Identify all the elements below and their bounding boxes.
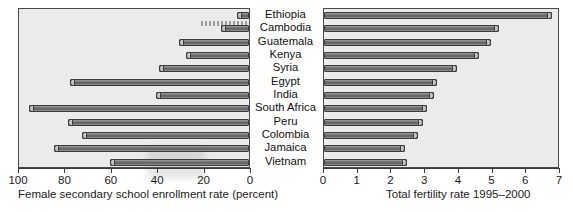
bar-end-cap [82,132,87,139]
bar [324,39,491,46]
bar-row [19,62,249,75]
bar-end-cap [179,39,184,46]
category-label: Kenya [250,48,321,61]
bar [324,132,418,139]
axis-tick [458,168,459,173]
axis-tick-label: 0 [247,174,253,187]
bar-end-cap [452,65,457,72]
bar-end-cap [156,92,161,99]
left-axis-title: Female secondary school enrollment rate … [18,188,278,201]
bar-end-cap [432,79,437,86]
bar-end-cap [547,12,552,19]
bar-row [324,76,558,89]
bar-end-cap [159,65,164,72]
bar-end-cap [110,159,115,166]
bar [324,79,437,86]
bar [324,145,405,152]
bar-row [324,156,558,169]
axis-tick-label: 4 [455,174,461,187]
bar-row [19,89,249,102]
left-bar-rows [19,9,249,167]
bar [82,132,249,139]
axis-tick-label: 5 [488,174,494,187]
bar-end-cap [486,39,491,46]
left-chart-plot-area [18,8,250,168]
right-bar-rows [324,9,558,167]
bar-row [324,89,558,102]
axis-tick [18,168,19,173]
axis-tick-label: 60 [104,174,117,187]
bar [29,105,249,112]
bar-row [324,36,558,49]
axis-tick-label: 0 [320,174,326,187]
paired-bar-chart-figure: 100806040200 Female secondary school enr… [0,0,573,212]
bar-end-cap [68,119,73,126]
category-label: India [250,88,321,101]
bar [324,52,479,59]
axis-tick-label: 40 [151,174,164,187]
right-x-axis: 01234567 [323,168,559,169]
bar-row [19,49,249,62]
bar-row [324,9,558,22]
axis-tick-label: 100 [8,174,27,187]
bar-end-cap [237,12,242,19]
axis-tick-label: 6 [522,174,528,187]
bar-end-cap [422,105,427,112]
bar-row [19,22,249,35]
bar [186,52,249,59]
bar-row [324,116,558,129]
axis-tick-label: 20 [197,174,210,187]
bar-end-cap [29,105,34,112]
bar-row [19,102,249,115]
bar [221,25,249,32]
axis-tick-label: 7 [556,174,562,187]
bar [237,12,249,19]
bar [324,12,552,19]
bar-row [324,129,558,142]
bar-row [324,22,558,35]
bar-row [324,142,558,155]
category-label: Cambodia [250,21,321,34]
bar [324,105,427,112]
bar [324,159,407,166]
category-label-column: EthiopiaCambodiaGuatemalaKenyaSyriaEgypt… [250,8,323,168]
axis-tick [559,168,560,173]
bar-row [19,129,249,142]
bar [324,65,457,72]
bar [324,25,499,32]
bar-end-cap [54,145,59,152]
bar [156,92,249,99]
bar [110,159,249,166]
axis-tick [204,168,205,173]
bar [159,65,249,72]
bar-end-cap [400,145,405,152]
axis-tick-label: 1 [354,174,360,187]
bar [70,79,249,86]
category-label: Colombia [250,128,321,141]
axis-tick [357,168,358,173]
bar-row [19,156,249,169]
axis-tick [111,168,112,173]
axis-tick-label: 3 [421,174,427,187]
bar-row [19,76,249,89]
axis-tick [424,168,425,173]
bar-end-cap [70,79,75,86]
bar-end-cap [429,92,434,99]
axis-tick [323,168,324,173]
bar-row [19,9,249,22]
axis-tick [250,168,251,173]
bar-end-cap [494,25,499,32]
bar [54,145,249,152]
category-label: Peru [250,115,321,128]
bar-row [19,142,249,155]
bar-end-cap [413,132,418,139]
category-label: Syria [250,61,321,74]
bar [324,119,423,126]
category-label: Guatemala [250,35,321,48]
right-chart-plot-area [323,8,559,168]
category-label: South Africa [250,101,321,114]
category-label: Ethiopia [250,8,321,21]
category-label: Vietnam [250,155,321,168]
axis-tick [157,168,158,173]
axis-tick-label: 80 [58,174,71,187]
